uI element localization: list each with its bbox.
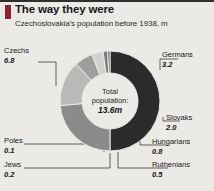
callout-poles-value: 0.1 [4,146,23,156]
callout-slovaks-category: Slovaks [166,113,192,123]
callout-jews: Jews 0.2 [4,160,21,179]
callout-poles: Poles 0.1 [4,136,23,155]
callout-slovaks: Slovaks 2.0 [166,113,192,132]
callout-ruthenians-category: Ruthenians [152,160,190,170]
callout-czechs-value: 6.8 [4,56,29,66]
donut-segments [60,51,160,151]
callout-czechs: Czechs 6.8 [4,46,29,65]
leader-line-czechs [38,62,56,86]
callout-germans-category: Germans [162,50,193,60]
callout-ruthenians: Ruthenians 0.5 [152,160,190,179]
callout-hungarians-category: Hungarians [152,137,190,147]
donut-segment-germans [60,104,110,151]
leader-line-jews [24,153,110,168]
donut-segment-czechs [110,51,160,151]
callout-ruthenians-value: 0.5 [152,170,190,180]
top-rule-divider [0,0,214,2]
callout-hungarians: Hungarians 0.8 [152,137,190,156]
accent-bar [5,5,11,19]
callout-jews-category: Jews [4,160,21,170]
callout-germans: Germans 3.2 [162,50,193,69]
infographic-panel: The way they were Czechoslovakia's popul… [0,0,214,191]
donut-chart [57,48,163,154]
callout-germans-value: 3.2 [162,60,193,70]
callout-poles-category: Poles [4,136,23,146]
callout-czechs-category: Czechs [4,46,29,56]
callout-hungarians-value: 0.8 [152,147,190,157]
callout-jews-value: 0.2 [4,170,21,180]
page-title: The way they were [15,3,114,15]
page-subtitle: Czechoslovakia's population before 1938,… [15,19,168,28]
callout-slovaks-value: 2.0 [166,123,192,133]
